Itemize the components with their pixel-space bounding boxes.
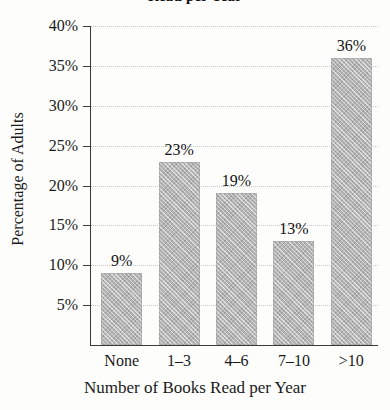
y-axis-tick <box>83 225 91 226</box>
bar-value-label: 23% <box>139 141 219 158</box>
bar[interactable] <box>331 58 372 345</box>
x-axis-line <box>90 345 378 346</box>
y-axis-tick <box>83 66 91 67</box>
y-axis-tick-label: 35% <box>49 58 78 74</box>
bar[interactable] <box>159 162 200 345</box>
y-axis-tick-label: 15% <box>49 217 78 233</box>
gridline <box>91 26 378 27</box>
x-axis-tick-label: >10 <box>311 352 390 370</box>
y-axis-tick-label: 10% <box>49 257 78 273</box>
bar-value-label: 19% <box>197 172 277 189</box>
bar[interactable] <box>101 273 142 345</box>
chart-title: Read per Year <box>0 0 390 5</box>
y-axis-tick <box>83 146 91 147</box>
x-axis-title: Number of Books Read per Year <box>0 378 390 397</box>
bar-value-label: 13% <box>254 220 334 237</box>
y-axis-title: Percentage of Adults <box>9 59 27 299</box>
bar-value-label: 9% <box>82 252 162 269</box>
bar[interactable] <box>273 241 314 345</box>
y-axis-tick-label: 5% <box>57 297 78 313</box>
bar-chart: Read per Year Percentage of Adults Numbe… <box>0 0 390 410</box>
y-axis-tick <box>83 186 91 187</box>
y-axis-tick-label: 20% <box>49 178 78 194</box>
y-axis-tick <box>83 106 91 107</box>
y-axis-tick-label: 30% <box>49 98 78 114</box>
bar[interactable] <box>216 193 257 345</box>
y-axis-tick <box>83 305 91 306</box>
bar-value-label: 36% <box>311 37 390 54</box>
y-axis-tick-label: 40% <box>49 18 78 34</box>
y-axis-tick <box>83 26 91 27</box>
y-axis-tick-label: 25% <box>49 138 78 154</box>
